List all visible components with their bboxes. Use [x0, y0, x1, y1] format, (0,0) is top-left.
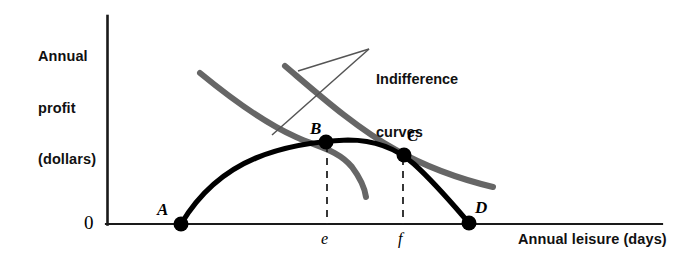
x-tick-label-e: e [321, 230, 328, 249]
callout-line-1: Indifference [376, 71, 458, 89]
y-axis-title-line-2: profit [38, 100, 96, 117]
point-label-c: C [407, 126, 418, 146]
origin-label: 0 [84, 212, 94, 234]
x-axis-title: Annual leisure (days) [518, 231, 667, 248]
point-marker-a [174, 217, 189, 232]
point-label-b: B [310, 119, 321, 139]
y-axis-title-line-1: Annual [38, 48, 96, 65]
x-tick-label-f: f [398, 230, 402, 249]
y-axis-title-line-3: (dollars) [38, 151, 96, 168]
point-label-d: D [475, 198, 487, 218]
indifference-curves-callout: Indifference curves [376, 36, 458, 178]
plot-canvas [0, 0, 691, 270]
leader-line-upper [298, 49, 369, 71]
economics-diagram-figure: Annual profit (dollars) Annual leisure (… [0, 0, 691, 270]
point-label-a: A [157, 200, 168, 220]
y-axis-title: Annual profit (dollars) [38, 14, 96, 202]
